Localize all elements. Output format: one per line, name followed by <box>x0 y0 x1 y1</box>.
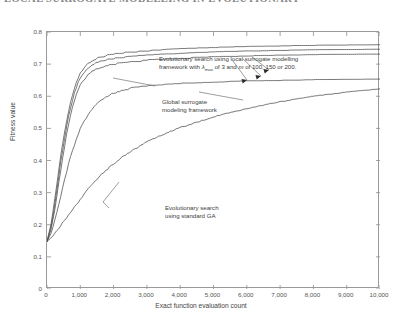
y-tick-label: 0.5 <box>16 124 42 131</box>
annotation-ga-line1: Evolutionary search <box>165 204 219 211</box>
annotation-standard-ga: Evolutionary search using standard GA <box>165 204 219 220</box>
leader-ga <box>103 182 119 202</box>
annotation-local-line1: Evolutionary search using local surrogat… <box>159 55 298 62</box>
figure-page: LOCAL SURROGATE MODELLING IN EVOLUTIONAR… <box>0 0 402 320</box>
annotation-global-surrogate: Global surrogate modeling framework <box>162 98 217 114</box>
plot-area: Evolutionary search using local surrogat… <box>46 31 379 288</box>
annotation-local-line2-pre: framework with <box>159 63 202 70</box>
y-tick-label: 0.6 <box>16 92 42 99</box>
x-tick-label: 10,000 <box>359 291 399 298</box>
y-tick-label: 0.7 <box>16 60 42 67</box>
annotation-global-line2: modeling framework <box>162 106 217 113</box>
y-tick-label: 0.3 <box>16 188 42 195</box>
annotation-local-line2-post: of 100, 150 or 200. <box>243 63 296 70</box>
y-tick-label: 0.8 <box>16 28 42 35</box>
arrowhead-local-2 <box>256 75 262 80</box>
x-axis-title: Exact function evaluation count <box>0 302 402 309</box>
y-tick-label: 0.2 <box>16 220 42 227</box>
annotation-global-line1: Global surrogate <box>162 98 207 105</box>
annotation-ga-line2: using standard GA <box>165 212 215 219</box>
y-tick-label: 0.1 <box>16 252 42 259</box>
leader-global-left <box>113 78 155 86</box>
running-header-text: LOCAL SURROGATE MODELLING IN EVOLUTIONAR… <box>4 0 300 4</box>
arrowhead-local-3 <box>242 79 248 84</box>
y-axis-title: Fitness value <box>9 102 16 141</box>
annotation-local-line2-mid: of 3 and <box>213 63 238 70</box>
annotation-local-surrogate: Evolutionary search using local surrogat… <box>159 55 298 75</box>
annotation-local-lambda-sub: max <box>205 67 213 72</box>
leader-ga-tail <box>103 202 109 208</box>
chart-figure: Fitness value Exact function evaluation … <box>0 11 402 320</box>
running-header: LOCAL SURROGATE MODELLING IN EVOLUTIONAR… <box>0 0 402 11</box>
y-tick-label: 0.4 <box>16 156 42 163</box>
